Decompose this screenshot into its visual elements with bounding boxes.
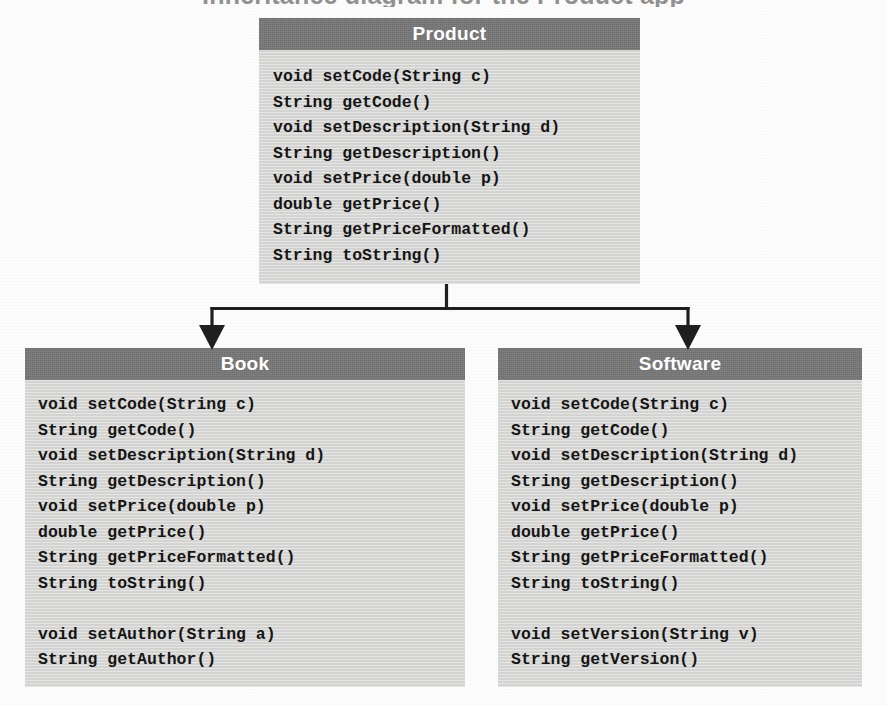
book-inherited-method: void setCode(String c) <box>38 392 465 418</box>
software-inherited-method: void setDescription(String d) <box>511 443 862 469</box>
product-method: void setCode(String c) <box>273 64 640 90</box>
software-inherited-method: String getPriceFormatted() <box>511 545 862 571</box>
software-own-method: void setVersion(String v) <box>511 622 862 648</box>
book-inherited-method: String getPriceFormatted() <box>38 545 465 571</box>
class-title-product: Product <box>413 23 487 45</box>
software-inherited-method: String getDescription() <box>511 469 862 495</box>
book-inherited-method: void setPrice(double p) <box>38 494 465 520</box>
class-body-product: void setCode(String c)String getCode()vo… <box>259 50 640 284</box>
method-group-separator <box>511 596 862 622</box>
product-method: String getCode() <box>273 90 640 116</box>
class-title-book: Book <box>221 353 270 375</box>
product-method: void setDescription(String d) <box>273 115 640 141</box>
software-inherited-method: void setCode(String c) <box>511 392 862 418</box>
class-body-book: void setCode(String c)String getCode()vo… <box>25 380 465 687</box>
class-title-software: Software <box>639 353 722 375</box>
book-inherited-method: String getCode() <box>38 418 465 444</box>
class-box-product[interactable]: Product void setCode(String c)String get… <box>259 18 640 284</box>
book-own-method: void setAuthor(String a) <box>38 622 465 648</box>
arrowhead-software <box>675 325 701 350</box>
book-inherited-method: void setDescription(String d) <box>38 443 465 469</box>
class-box-book[interactable]: Book void setCode(String c)String getCod… <box>25 348 465 687</box>
software-inherited-method: String getCode() <box>511 418 862 444</box>
class-header-product: Product <box>259 18 640 50</box>
method-group-separator <box>38 596 465 622</box>
book-inherited-method: double getPrice() <box>38 520 465 546</box>
book-own-method: String getAuthor() <box>38 647 465 673</box>
software-own-method: String getVersion() <box>511 647 862 673</box>
class-header-book: Book <box>25 348 465 380</box>
product-method: String getDescription() <box>273 141 640 167</box>
class-box-software[interactable]: Software void setCode(String c)String ge… <box>498 348 862 687</box>
product-method: double getPrice() <box>273 192 640 218</box>
arrowhead-book <box>199 325 225 350</box>
class-header-software: Software <box>498 348 862 380</box>
book-inherited-method: String getDescription() <box>38 469 465 495</box>
product-method: String toString() <box>273 243 640 269</box>
class-body-software: void setCode(String c)String getCode()vo… <box>498 380 862 687</box>
diagram-page: Inheritance diagram for the Product app … <box>0 0 887 705</box>
product-method: String getPriceFormatted() <box>273 217 640 243</box>
product-method: void setPrice(double p) <box>273 166 640 192</box>
book-inherited-method: String toString() <box>38 571 465 597</box>
software-inherited-method: double getPrice() <box>511 520 862 546</box>
software-inherited-method: String toString() <box>511 571 862 597</box>
page-heading-cutoff: Inheritance diagram for the Product app <box>0 0 887 7</box>
software-inherited-method: void setPrice(double p) <box>511 494 862 520</box>
